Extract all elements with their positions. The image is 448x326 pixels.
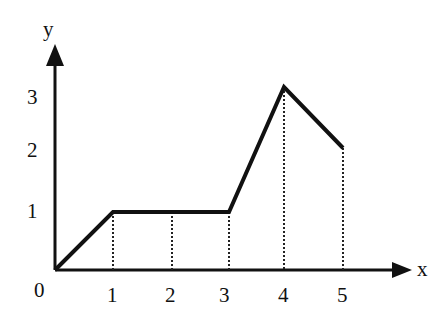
x-tick-5: 5 — [337, 283, 348, 307]
x-axis-label: x — [417, 257, 428, 281]
data-line — [55, 87, 343, 270]
origin-label: 0 — [34, 278, 45, 302]
x-axis-arrow-icon — [392, 262, 412, 278]
y-tick-1: 1 — [27, 199, 38, 223]
x-tick-3: 3 — [219, 283, 230, 307]
y-tick-2: 2 — [27, 138, 38, 162]
y-tick-3: 3 — [27, 85, 38, 109]
y-axis-label: y — [43, 17, 54, 41]
x-tick-1: 1 — [107, 283, 118, 307]
y-axis-arrow-icon — [46, 44, 64, 66]
x-tick-2: 2 — [165, 283, 176, 307]
x-tick-4: 4 — [278, 283, 289, 307]
chart: y x 0 1 2 3 4 5 1 2 3 — [0, 0, 448, 326]
